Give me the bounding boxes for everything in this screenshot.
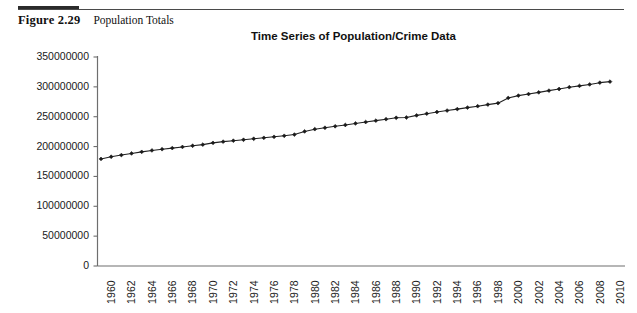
x-axis-tick-label: 1966 <box>166 280 178 304</box>
x-axis-tick-label: 2010 <box>614 280 626 304</box>
x-axis-tick-label: 2008 <box>594 280 606 304</box>
x-axis-tick-label: 1986 <box>370 280 382 304</box>
x-axis-tick-label: 1992 <box>431 280 443 304</box>
x-axis-tick-label: 1982 <box>329 280 341 304</box>
x-axis-tick-label: 2006 <box>573 280 585 304</box>
x-axis-tick-label: 1990 <box>410 280 422 304</box>
x-axis-tick-label: 1976 <box>268 280 280 304</box>
x-axis-tick-label: 1970 <box>207 280 219 304</box>
x-axis-tick-label: 2000 <box>512 280 524 304</box>
x-axis-tick-label: 1974 <box>248 280 260 304</box>
x-axis-tick-label: 1988 <box>390 280 402 304</box>
x-axis-tick-label: 1968 <box>186 280 198 304</box>
x-axis-tick-label: 1964 <box>146 280 158 304</box>
x-axis-tick-label: 1998 <box>492 280 504 304</box>
x-axis-labels: 1960196219641966196819701972197419761978… <box>0 0 637 313</box>
x-axis-tick-label: 1960 <box>105 280 117 304</box>
x-axis-tick-label: 2004 <box>553 280 565 304</box>
x-axis-tick-label: 1980 <box>309 280 321 304</box>
x-axis-tick-label: 2002 <box>533 280 545 304</box>
figure-page: Figure 2.29Population Totals Time Series… <box>0 0 637 313</box>
x-axis-tick-label: 1978 <box>288 280 300 304</box>
x-axis-tick-label: 1996 <box>471 280 483 304</box>
x-axis-tick-label: 1972 <box>227 280 239 304</box>
x-axis-tick-label: 1994 <box>451 280 463 304</box>
x-axis-tick-label: 1984 <box>349 280 361 304</box>
x-axis-tick-label: 1962 <box>125 280 137 304</box>
